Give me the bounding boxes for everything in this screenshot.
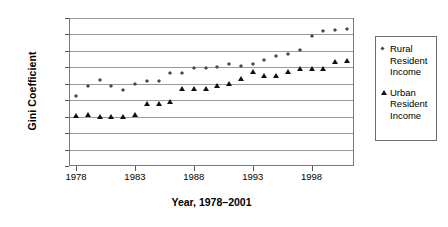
data-point (285, 69, 291, 74)
data-point (226, 81, 232, 86)
x-tick-label: 1988 (174, 171, 214, 182)
data-point (132, 112, 138, 117)
y-tick-mark (65, 51, 69, 52)
y-tick-mark (65, 34, 69, 35)
y-tick-mark (65, 67, 69, 68)
diamond-marker-icon (380, 46, 384, 50)
gridline (70, 133, 353, 134)
data-point (273, 73, 279, 78)
data-point (191, 86, 197, 91)
chart-figure: Gini Coefficient 00.050.10.150.20.250.30… (0, 0, 448, 227)
data-point (156, 101, 162, 106)
data-point (167, 98, 173, 103)
x-tick-label: 1993 (233, 171, 273, 182)
gridline (70, 100, 353, 101)
y-tick-mark (65, 133, 69, 134)
data-point (203, 86, 209, 91)
data-point (250, 68, 256, 73)
data-point (120, 114, 126, 119)
y-tick-mark (65, 166, 69, 167)
data-point (344, 58, 350, 63)
legend-label-line: Resident (390, 55, 433, 67)
legend-label-line: Rural (390, 43, 433, 55)
y-tick-mark (65, 150, 69, 151)
data-point (309, 66, 315, 71)
gridline (70, 18, 353, 19)
legend-label-line: Urban (390, 87, 433, 99)
plot-area (69, 18, 354, 166)
legend-label: UrbanResidentIncome (390, 87, 433, 122)
data-point (238, 76, 244, 81)
data-point (332, 59, 338, 64)
x-tick-label: 1983 (115, 171, 155, 182)
data-point (297, 66, 303, 71)
gridline (70, 150, 353, 151)
legend-label-line: Resident (390, 98, 433, 110)
legend-label: RuralResidentIncome (390, 43, 433, 78)
data-point (179, 86, 185, 91)
data-point (97, 114, 103, 119)
data-point (73, 113, 79, 118)
data-point (108, 114, 114, 119)
legend-entry: UrbanResidentIncome (380, 87, 433, 122)
data-point (320, 66, 326, 71)
x-axis-title: Year, 1978–2001 (69, 196, 354, 208)
data-point (261, 73, 267, 78)
y-axis-title: Gini Coefficient (26, 21, 38, 161)
y-tick-mark (65, 84, 69, 85)
gridline (70, 51, 353, 52)
y-tick-mark (65, 18, 69, 19)
legend-entry: RuralResidentIncome (380, 43, 433, 78)
data-point (214, 83, 220, 88)
data-point (85, 112, 91, 117)
data-point (144, 100, 150, 105)
x-tick-label: 1998 (292, 171, 332, 182)
x-tick-label: 1978 (56, 171, 96, 182)
y-tick-mark (65, 100, 69, 101)
triangle-marker-icon (381, 90, 387, 95)
chart-legend: RuralResidentIncomeUrbanResidentIncome (375, 36, 437, 141)
y-tick-mark (65, 117, 69, 118)
legend-label-line: Income (390, 66, 433, 78)
legend-label-line: Income (390, 110, 433, 122)
